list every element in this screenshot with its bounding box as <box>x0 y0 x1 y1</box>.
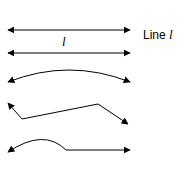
legend-symbol: l <box>169 27 173 42</box>
lines-diagram <box>0 0 185 169</box>
arc-curve <box>8 70 130 82</box>
line-l-legend: Line l <box>143 27 173 43</box>
line-l-symbol: l <box>62 34 66 50</box>
figure-canvas: l Line l <box>0 0 185 169</box>
legend-prefix: Line <box>143 28 166 42</box>
mixed-curve <box>8 139 130 152</box>
broken-line <box>8 103 128 124</box>
